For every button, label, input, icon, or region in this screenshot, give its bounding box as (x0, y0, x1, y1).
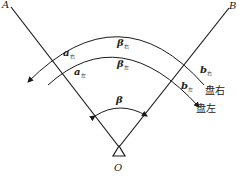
label-a-right-sub: 右 (70, 53, 75, 60)
label-point-o: O (114, 162, 122, 173)
label-beta-right-sub: 右 (124, 43, 129, 50)
line-oa (11, 7, 119, 147)
label-face-right: 盘右 (205, 84, 225, 96)
station-triangle-icon (113, 146, 125, 156)
line-ob (119, 8, 229, 147)
label-beta: β (115, 94, 123, 105)
label-point-b: B (228, 0, 236, 11)
angle-diagram: A B O a 右 a 左 β 右 β 左 b 右 b 左 β 盘右 盘左 (0, 0, 239, 178)
label-beta-right: β (116, 37, 124, 48)
label-a-left: a (74, 66, 80, 77)
label-a-left-sub: 左 (81, 72, 86, 78)
label-b-left-sub: 左 (188, 86, 193, 92)
label-face-left: 盘左 (196, 102, 216, 114)
label-beta-left-sub: 左 (124, 64, 129, 70)
arc-face-right (28, 37, 204, 85)
label-beta-left: β (116, 58, 124, 69)
label-b-right: b (200, 64, 207, 75)
label-a-right: a (63, 47, 69, 58)
arc-beta (95, 108, 147, 116)
label-b-left: b (181, 80, 188, 91)
label-b-right-sub: 右 (207, 70, 212, 77)
label-point-a: A (1, 0, 9, 10)
